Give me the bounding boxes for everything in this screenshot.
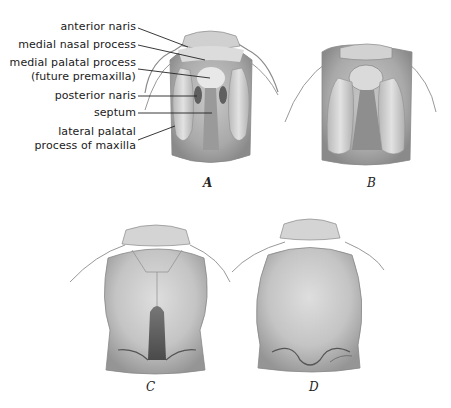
panel-c-drawing — [70, 225, 230, 374]
panel-d-drawing — [232, 219, 384, 372]
label-process-of-maxilla: process of maxilla — [34, 139, 136, 152]
label-medial-palatal-process: medial palatal process — [10, 56, 136, 69]
label-future-premaxilla: (future premaxilla) — [31, 70, 136, 83]
label-anterior-naris: anterior naris — [60, 20, 136, 33]
caption-c: C — [146, 380, 155, 394]
panel-b-drawing — [285, 44, 436, 165]
caption-d: D — [309, 380, 319, 394]
label-medial-nasal-process: medial nasal process — [18, 38, 136, 51]
caption-b: B — [367, 176, 376, 190]
caption-a: A — [203, 176, 212, 190]
label-septum: septum — [94, 106, 136, 119]
label-posterior-naris: posterior naris — [55, 89, 136, 102]
label-lateral-palatal: lateral palatal — [58, 125, 136, 138]
